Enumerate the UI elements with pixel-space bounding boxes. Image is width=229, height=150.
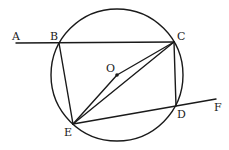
line-e-f — [73, 99, 216, 124]
line-a-c — [16, 42, 174, 43]
segment-b-e — [59, 43, 73, 124]
label-e: E — [64, 126, 72, 139]
label-c: C — [177, 30, 185, 43]
label-a: A — [11, 30, 21, 43]
label-d: D — [177, 108, 186, 121]
label-o: O — [106, 62, 115, 75]
segment-o-e — [73, 75, 117, 124]
segment-o-c — [117, 42, 174, 75]
center-point-o — [115, 73, 119, 77]
segment-c-e — [73, 42, 174, 124]
geometry-diagram: A B C O D E F — [0, 0, 229, 150]
segment-c-d — [174, 42, 176, 106]
label-f: F — [214, 101, 222, 114]
label-b: B — [50, 30, 58, 43]
